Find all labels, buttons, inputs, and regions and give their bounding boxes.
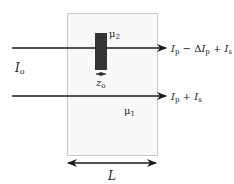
inclusion-block bbox=[95, 33, 107, 70]
input-intensity-label: Io bbox=[14, 61, 25, 76]
top-output-label: Ip − ΔIp + Is bbox=[170, 43, 233, 56]
length-label: L bbox=[107, 169, 116, 183]
bottom-output-label: Ip + Is bbox=[170, 91, 202, 104]
diagram-canvas: μ2 zo μ1 Io Ip − ΔIp + Is Ip + Is L bbox=[0, 0, 234, 184]
